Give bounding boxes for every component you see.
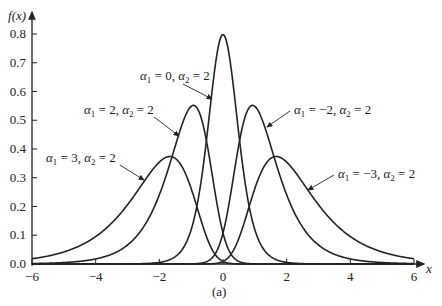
y-tick-label: 0.0 [10, 256, 26, 271]
x-tick-label: 4 [347, 269, 354, 284]
y-tick-label: 0.8 [10, 26, 26, 41]
series-label: α1 = −3, α2 = 2 [338, 166, 415, 183]
chart: −6−4−202460.00.10.20.30.40.50.60.70.8 α1… [0, 0, 442, 306]
y-tick-label: 0.6 [10, 84, 27, 99]
y-axis-label: f(x) [8, 8, 26, 23]
x-axis-label: x [425, 261, 432, 276]
annotations: α1 = 0, α2 = 2α1 = 2, α2 = 2α1 = 3, α2 =… [46, 68, 415, 190]
label-arrow [120, 165, 144, 180]
x-tick-label: −6 [25, 269, 39, 284]
label-arrow [154, 117, 179, 136]
y-tick-label: 0.7 [10, 55, 27, 70]
x-tick-label: 0 [220, 269, 227, 284]
label-arrow [183, 84, 212, 99]
series-label: α1 = −2, α2 = 2 [294, 102, 371, 119]
y-tick-label: 0.4 [10, 141, 27, 156]
x-tick-label: −2 [152, 269, 166, 284]
series-label: α1 = 2, α2 = 2 [84, 102, 154, 119]
y-tick-label: 0.5 [10, 112, 26, 127]
series-label: α1 = 0, α2 = 2 [140, 68, 210, 85]
x-tick-label: −4 [89, 269, 103, 284]
label-arrow [308, 175, 334, 190]
x-tick-label: 2 [283, 269, 290, 284]
figure-caption: (a) [212, 284, 226, 299]
x-tick-label: 6 [411, 269, 418, 284]
y-tick-label: 0.2 [10, 199, 26, 214]
label-arrow [267, 111, 290, 127]
series-label: α1 = 3, α2 = 2 [46, 150, 116, 167]
y-tick-label: 0.3 [10, 170, 26, 185]
y-tick-label: 0.1 [10, 227, 26, 242]
